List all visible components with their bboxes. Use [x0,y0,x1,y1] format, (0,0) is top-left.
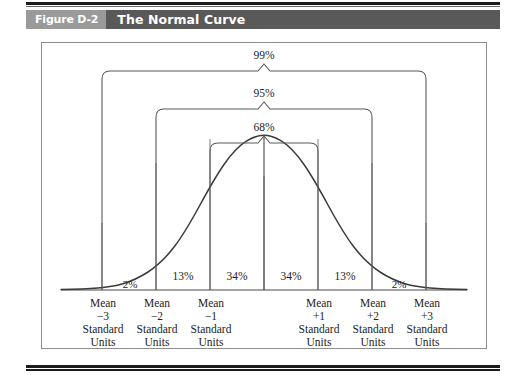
figure-number-label: Figure D-2 [26,10,106,29]
axis-label-minus-1: Mean −1 Standard Units [173,297,249,349]
region-label-right-34: 34% [280,270,302,282]
region-label-left-34: 34% [226,270,248,282]
axis-label-plus-3-line3: Standard [389,323,465,336]
axis-label-plus-3: Mean +3 Standard Units [389,297,465,349]
axis-label-minus-1-line1: Mean [173,297,249,310]
chart-frame: 99% 95% 68% 2% 13% 34% 34% 13% 2% Mean −… [41,42,487,349]
brace-label-95: 95% [253,87,275,99]
figure-title: The Normal Curve [106,10,245,29]
brace-label-68: 68% [253,121,275,133]
region-label-right-2: 2% [392,278,407,290]
axis-label-plus-3-line1: Mean [389,297,465,310]
axis-label-plus-3-line2: +3 [389,310,465,323]
brace-label-99: 99% [253,49,275,61]
figure-header: Figure D-2 The Normal Curve [26,10,500,29]
region-label-right-13: 13% [334,270,356,282]
bottom-rule-bottom [26,369,500,371]
axis-label-minus-1-line2: −1 [173,310,249,323]
region-label-left-2: 2% [123,278,138,290]
top-rule-thick [26,2,500,5]
axis-label-minus-1-line3: Standard [173,323,249,336]
axis-label-plus-3-line4: Units [389,336,465,349]
region-label-left-13: 13% [172,270,194,282]
top-rule-thin [26,6,500,7]
axis-label-minus-1-line4: Units [173,336,249,349]
